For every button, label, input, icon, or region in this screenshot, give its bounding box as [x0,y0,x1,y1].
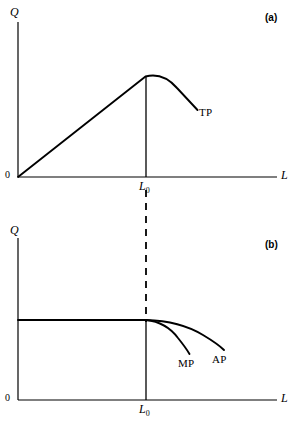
production-function-figure: Q 0 L L0 TP (a) Q 0 L L0 MP AP (b) [0,0,298,423]
panel-a-y-axis-label: Q [10,6,19,18]
panel-b-x-axis-label: L [281,392,288,404]
panel-b-label: (b) [265,240,278,250]
panel-a-origin-label: 0 [5,170,10,180]
panel-b-l0-label: L0 [139,403,150,418]
panel-b-l0-subscript: 0 [146,409,150,418]
figure-canvas [0,0,298,423]
panel-b-origin-label: 0 [5,393,10,403]
ap-curve [146,320,224,350]
panel-a-group [18,22,277,177]
mp-curve-label: MP [178,358,195,369]
panel-a-x-axis-label: L [281,169,288,181]
ap-curve-label: AP [212,354,227,365]
tp-curve [18,76,198,177]
panel-b-y-axis-label: Q [10,224,19,236]
tp-curve-label: TP [199,107,212,118]
panel-b-group [18,238,277,400]
panel-a-label: (a) [265,13,277,23]
panel-a-l0-subscript: 0 [146,186,150,195]
panel-a-l0-letter: L [139,179,146,193]
panel-b-l0-letter: L [139,402,146,416]
panel-a-l0-label: L0 [139,180,150,195]
